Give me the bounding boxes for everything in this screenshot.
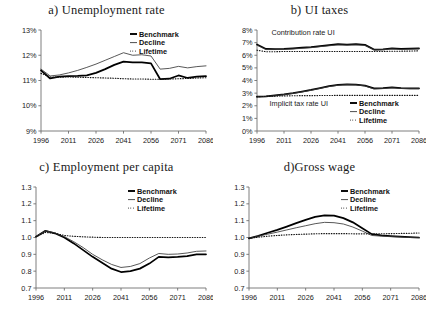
svg-text:2011: 2011 (56, 293, 72, 302)
svg-text:5%: 5% (242, 63, 253, 72)
panel-b-svg: 0%1%2%3%4%5%6%7%8%1996201120262041205620… (213, 0, 426, 157)
svg-text:6%: 6% (242, 51, 253, 60)
svg-text:1.0: 1.0 (234, 233, 244, 242)
svg-text:2026: 2026 (298, 293, 314, 302)
svg-text:2011: 2011 (269, 293, 285, 302)
series-line-benchmark (249, 215, 419, 238)
svg-text:4%: 4% (242, 76, 253, 85)
panel-c-employment-per-capita: c) Employment per capita 0.70.80.91.01.1… (0, 157, 213, 314)
legend-label-lifetime: Lifetime (359, 116, 387, 125)
panel-a-unemployment-rate: a) Unemployment rate 9%10%11%12%13%19962… (0, 0, 213, 157)
svg-text:1996: 1996 (249, 136, 265, 145)
svg-text:2056: 2056 (357, 136, 373, 145)
svg-text:3%: 3% (242, 89, 253, 98)
panel-d-gross-wage: d)Gross wage 0.70.80.91.01.11.21.3199620… (213, 157, 426, 314)
panel-c-svg: 0.70.80.91.01.11.21.31996201120262041205… (0, 157, 213, 314)
svg-text:2056: 2056 (141, 293, 157, 302)
panel-c-plot: 0.70.80.91.01.11.21.31996201120262041205… (0, 157, 213, 314)
svg-text:1996: 1996 (28, 293, 44, 302)
figure-grid: a) Unemployment rate 9%10%11%12%13%19962… (0, 0, 426, 314)
panel-b-plot: 0%1%2%3%4%5%6%7%8%1996201120262041205620… (213, 0, 426, 157)
svg-text:8%: 8% (242, 26, 253, 35)
svg-text:2011: 2011 (276, 136, 292, 145)
svg-text:2086: 2086 (198, 293, 213, 302)
svg-text:2086: 2086 (198, 136, 213, 145)
svg-text:2041: 2041 (115, 136, 131, 145)
panel-b-ui-taxes: b) UI taxes 0%1%2%3%4%5%6%7%8%1996201120… (213, 0, 426, 157)
panel-a-plot: 9%10%11%12%13%19962011202620412056207120… (0, 0, 213, 157)
svg-text:1.2: 1.2 (21, 199, 31, 208)
svg-text:2026: 2026 (88, 136, 104, 145)
svg-text:1996: 1996 (33, 136, 49, 145)
series-line-lifetime (257, 95, 419, 96)
svg-text:2071: 2071 (170, 136, 186, 145)
legend-label-lifetime: Lifetime (350, 204, 378, 213)
svg-text:2071: 2071 (383, 293, 399, 302)
svg-text:9%: 9% (26, 127, 37, 136)
svg-text:1.0: 1.0 (21, 233, 31, 242)
legend-label-lifetime: Lifetime (139, 47, 167, 56)
svg-text:2011: 2011 (61, 136, 77, 145)
svg-text:0.7: 0.7 (21, 284, 31, 293)
series-line-decline (41, 53, 206, 76)
svg-text:2041: 2041 (113, 293, 129, 302)
svg-text:1%: 1% (242, 114, 253, 123)
svg-text:2071: 2071 (170, 293, 186, 302)
svg-text:2056: 2056 (354, 293, 370, 302)
chart-annotation: Contribution rate UI (271, 28, 334, 37)
panel-d-svg: 0.70.80.91.01.11.21.31996201120262041205… (213, 157, 426, 314)
svg-text:1.1: 1.1 (234, 216, 244, 225)
chart-annotation: Implicit tax rate UI (270, 99, 328, 108)
svg-text:1.1: 1.1 (21, 216, 31, 225)
svg-text:12%: 12% (22, 51, 37, 60)
svg-text:2026: 2026 (85, 293, 101, 302)
svg-text:10%: 10% (22, 101, 37, 110)
svg-text:1.2: 1.2 (234, 199, 244, 208)
svg-text:2041: 2041 (326, 293, 342, 302)
svg-text:1.3: 1.3 (21, 183, 31, 192)
svg-text:0.7: 0.7 (234, 284, 244, 293)
svg-text:11%: 11% (22, 76, 37, 85)
legend-label-lifetime: Lifetime (137, 204, 165, 213)
svg-text:2056: 2056 (143, 136, 159, 145)
svg-text:2026: 2026 (303, 136, 319, 145)
svg-text:2041: 2041 (330, 136, 346, 145)
panel-a-svg: 9%10%11%12%13%19962011202620412056207120… (0, 0, 213, 157)
svg-text:1.3: 1.3 (234, 183, 244, 192)
svg-text:0.8: 0.8 (234, 267, 244, 276)
svg-text:0.8: 0.8 (21, 267, 31, 276)
svg-text:2%: 2% (242, 101, 253, 110)
series-line-lifetime (257, 50, 419, 52)
series-line-decline (257, 45, 419, 50)
svg-text:2071: 2071 (384, 136, 400, 145)
svg-text:0.9: 0.9 (21, 250, 31, 259)
svg-text:0%: 0% (242, 127, 253, 136)
panel-d-plot: 0.70.80.91.01.11.21.31996201120262041205… (213, 157, 426, 314)
svg-text:7%: 7% (242, 38, 253, 47)
svg-text:2086: 2086 (411, 136, 426, 145)
svg-text:2086: 2086 (411, 293, 426, 302)
svg-text:1996: 1996 (241, 293, 257, 302)
svg-text:0.9: 0.9 (234, 250, 244, 259)
svg-text:13%: 13% (22, 26, 37, 35)
